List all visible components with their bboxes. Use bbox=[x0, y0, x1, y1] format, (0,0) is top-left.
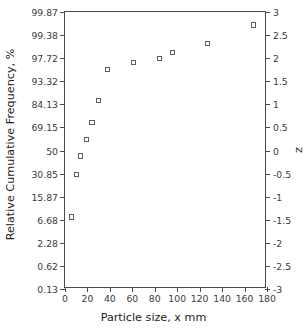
plot-area: 99.8799.3897.7293.3284.1369.155030.8515.… bbox=[64, 11, 266, 288]
y-tick-label-left: 69.15 bbox=[31, 122, 58, 133]
y-tick-right bbox=[265, 81, 270, 82]
y-tick-label-right: 1.5 bbox=[273, 76, 288, 87]
y-tick-left bbox=[60, 151, 65, 152]
x-tick-label: 180 bbox=[258, 293, 276, 304]
y-tick-label-left: 97.72 bbox=[31, 53, 58, 64]
x-tick-label: 160 bbox=[236, 293, 254, 304]
x-tick-label: 80 bbox=[149, 293, 161, 304]
y-tick-label-right: 2.5 bbox=[273, 30, 288, 41]
y-tick-label-right: -0.5 bbox=[273, 168, 291, 179]
y-tick-label-right: -1 bbox=[273, 191, 282, 202]
data-point-marker bbox=[84, 137, 89, 142]
data-point-marker bbox=[69, 214, 74, 219]
y-tick-label-left: 30.85 bbox=[31, 168, 58, 179]
data-point-marker bbox=[96, 98, 101, 103]
y-tick-label-left: 0.13 bbox=[37, 284, 58, 295]
y-tick-left bbox=[60, 174, 65, 175]
y-tick-label-left: 0.62 bbox=[37, 260, 58, 271]
y-tick-label-left: 6.68 bbox=[37, 214, 58, 225]
y-tick-right bbox=[265, 266, 270, 267]
x-tick-label: 140 bbox=[213, 293, 231, 304]
x-tick bbox=[200, 287, 201, 292]
x-tick bbox=[177, 287, 178, 292]
x-tick bbox=[110, 287, 111, 292]
y-tick-label-left: 99.87 bbox=[31, 7, 58, 18]
y-tick-right bbox=[265, 197, 270, 198]
x-tick bbox=[132, 287, 133, 292]
y-axis-title-text: Relative Cumulative Frequency, % bbox=[4, 49, 17, 241]
x-axis-title-text: Particle size, x mm bbox=[101, 311, 207, 324]
x-tick bbox=[267, 287, 268, 292]
y-tick-label-right: -2.5 bbox=[273, 260, 291, 271]
y-tick-label-left: 15.87 bbox=[31, 191, 58, 202]
y-tick-left bbox=[60, 35, 65, 36]
y-tick-left bbox=[60, 81, 65, 82]
y-tick-left bbox=[60, 266, 65, 267]
y-tick-label-left: 50 bbox=[46, 145, 58, 156]
y-tick-right bbox=[265, 58, 270, 59]
y-tick-right bbox=[265, 127, 270, 128]
x-tick-label: 20 bbox=[82, 293, 94, 304]
data-point-marker bbox=[157, 56, 162, 61]
data-point-marker bbox=[74, 172, 79, 177]
x-tick-label: 40 bbox=[104, 293, 116, 304]
x-tick bbox=[155, 287, 156, 292]
y-tick-label-right: -2 bbox=[273, 237, 282, 248]
data-point-marker bbox=[89, 120, 94, 125]
data-point-marker bbox=[78, 153, 83, 158]
y-tick-left bbox=[60, 243, 65, 244]
y-tick-label-right: 3 bbox=[273, 7, 279, 18]
y-tick-label-left: 93.32 bbox=[31, 76, 58, 87]
y-tick-label-right: -1.5 bbox=[273, 214, 291, 225]
data-point-marker bbox=[251, 22, 256, 27]
data-point-marker bbox=[131, 60, 136, 65]
y-tick-label-left: 84.13 bbox=[31, 99, 58, 110]
y-tick-label-right: 2 bbox=[273, 53, 279, 64]
x-tick-label: 60 bbox=[126, 293, 138, 304]
y-tick-label-right: 0.5 bbox=[273, 122, 288, 133]
y-tick-left bbox=[60, 127, 65, 128]
y-tick-left bbox=[60, 104, 65, 105]
x-tick bbox=[245, 287, 246, 292]
y-tick-left bbox=[60, 58, 65, 59]
x-axis-title: Particle size, x mm bbox=[0, 311, 307, 324]
y-tick-right bbox=[265, 174, 270, 175]
x-tick-label: 100 bbox=[168, 293, 186, 304]
data-point-marker bbox=[105, 67, 110, 72]
data-point-marker bbox=[205, 41, 210, 46]
y-tick-left bbox=[60, 197, 65, 198]
y-tick-label-left: 2.28 bbox=[37, 237, 58, 248]
z-axis-title-text: z bbox=[292, 147, 305, 153]
y-axis-title: Relative Cumulative Frequency, % bbox=[0, 0, 20, 331]
y-tick-right bbox=[265, 12, 270, 13]
x-tick bbox=[222, 287, 223, 292]
y-tick-right bbox=[265, 104, 270, 105]
y-tick-left bbox=[60, 220, 65, 221]
y-tick-right bbox=[265, 243, 270, 244]
x-tick-label: 0 bbox=[62, 293, 68, 304]
x-tick-label: 120 bbox=[191, 293, 209, 304]
x-tick bbox=[65, 287, 66, 292]
x-tick bbox=[87, 287, 88, 292]
y-tick-right bbox=[265, 151, 270, 152]
probability-plot-figure: 99.8799.3897.7293.3284.1369.155030.8515.… bbox=[0, 0, 307, 331]
y-tick-right bbox=[265, 220, 270, 221]
data-point-marker bbox=[170, 50, 175, 55]
y-tick-label-right: 1 bbox=[273, 99, 279, 110]
z-axis-title: z bbox=[278, 140, 307, 160]
y-tick-left bbox=[60, 12, 65, 13]
y-tick-label-left: 99.38 bbox=[31, 30, 58, 41]
y-tick-right bbox=[265, 35, 270, 36]
